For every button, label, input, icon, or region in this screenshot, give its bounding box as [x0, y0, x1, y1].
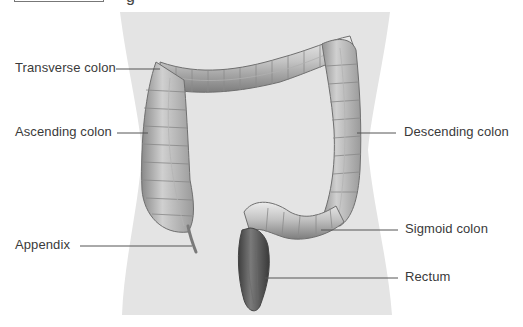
label-transverse-colon: Transverse colon	[15, 60, 116, 76]
colon-anatomy-diagram: g	[0, 0, 523, 327]
label-descending-colon: Descending colon	[404, 124, 509, 140]
label-ascending-colon: Ascending colon	[15, 124, 112, 140]
label-sigmoid-colon: Sigmoid colon	[405, 221, 488, 237]
label-appendix: Appendix	[15, 237, 70, 253]
label-rectum: Rectum	[405, 269, 450, 285]
